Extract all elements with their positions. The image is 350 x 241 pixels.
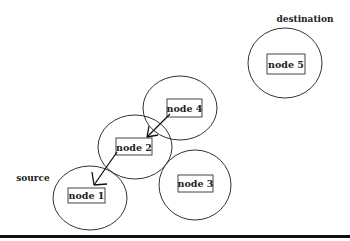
destination-label: destination: [276, 14, 334, 24]
source-label: source: [16, 173, 50, 183]
bottom-rule: [0, 235, 350, 238]
diagram-svg: node 5 node 4 node 2 node 3 node 1 desti…: [0, 0, 350, 241]
node-3-label: node 3: [178, 178, 214, 189]
node-1-label: node 1: [69, 190, 105, 201]
network-diagram: node 5 node 4 node 2 node 3 node 1 desti…: [0, 0, 350, 241]
node-5-label: node 5: [268, 59, 304, 70]
node-4-label: node 4: [167, 103, 203, 114]
node-2-label: node 2: [116, 142, 152, 153]
